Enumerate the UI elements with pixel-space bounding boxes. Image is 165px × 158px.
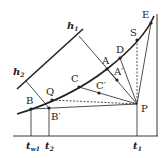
point-a-prime xyxy=(115,78,118,81)
point-e xyxy=(149,21,152,24)
point-b-prime xyxy=(47,106,50,109)
label-h2: h2 xyxy=(13,66,24,78)
label-p: P xyxy=(141,103,148,114)
h1-ray xyxy=(79,36,117,80)
point-c-prime xyxy=(97,91,100,94)
point-c xyxy=(77,85,80,88)
psychrometric-diagram: h1 h2 B B′ Q C C′ A A′ D S E P tw1 t2 t1 xyxy=(0,0,165,158)
label-c: C xyxy=(71,73,79,84)
e-p-line xyxy=(137,23,151,104)
b-p-line xyxy=(31,104,137,109)
point-q xyxy=(50,98,53,101)
label-d: D xyxy=(116,44,124,55)
point-d xyxy=(118,56,121,59)
label-c-prime: C′ xyxy=(96,80,107,91)
label-t1: t1 xyxy=(133,140,142,152)
label-tw1: tw1 xyxy=(26,140,40,152)
label-b: B xyxy=(26,95,33,106)
label-t2: t2 xyxy=(45,140,54,152)
d-p-line xyxy=(120,58,137,104)
label-a-prime: A′ xyxy=(113,66,124,77)
label-b-prime: B′ xyxy=(51,111,61,122)
label-q: Q xyxy=(46,86,54,97)
label-a: A xyxy=(101,55,110,66)
label-h1: h1 xyxy=(67,20,78,32)
label-e: E xyxy=(142,9,149,20)
point-b xyxy=(29,107,32,110)
label-s: S xyxy=(130,27,137,38)
point-s xyxy=(135,38,138,41)
point-a xyxy=(105,67,108,70)
